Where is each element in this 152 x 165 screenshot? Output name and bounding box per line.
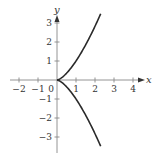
curve-upper-branch bbox=[57, 14, 101, 80]
x-tick-label: −2 bbox=[12, 84, 25, 94]
x-tick-label: 2 bbox=[92, 84, 98, 94]
x-tick-label: 4 bbox=[130, 84, 136, 94]
y-axis-label: y bbox=[53, 4, 60, 15]
x-tick-label: 3 bbox=[111, 84, 117, 94]
x-axis-arrow-icon bbox=[138, 78, 145, 83]
y-tick-label: −3 bbox=[39, 132, 53, 142]
y-tick-label: 2 bbox=[46, 37, 52, 47]
chart-plot: x y −2−101234321−1−2−3 bbox=[0, 0, 152, 165]
x-axis-label: x bbox=[146, 74, 152, 85]
x-tick-label: 1 bbox=[73, 84, 79, 94]
axes: x y bbox=[10, 4, 152, 153]
x-tick-label: −1 bbox=[31, 84, 44, 94]
y-tick-label: −2 bbox=[39, 113, 52, 123]
y-tick-label: −1 bbox=[39, 94, 52, 104]
y-axis-arrow-icon bbox=[55, 15, 60, 22]
x-tick-label: 0 bbox=[48, 84, 54, 94]
y-tick-label: 3 bbox=[46, 18, 52, 28]
y-tick-label: 1 bbox=[46, 56, 52, 66]
